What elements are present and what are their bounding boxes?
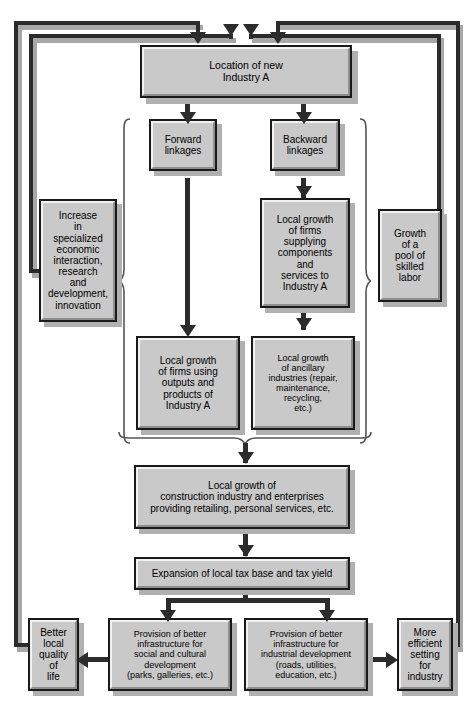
node-location-label: Location of newIndustry A <box>209 60 283 84</box>
node-efficient-label: Moreefficientsettingforindustry <box>407 627 442 683</box>
feedback-arrow-2-icon <box>223 24 239 36</box>
node-better-quality-of-life[interactable]: Betterlocalqualityoflife <box>28 618 79 691</box>
feedback-outer-right-top <box>276 21 460 25</box>
node-industrial-infrastructure[interactable]: Provision of betterinfrastructure forind… <box>244 618 368 691</box>
arrow-location-to-forward-icon <box>180 112 196 124</box>
edge-tax-split-bar <box>166 598 330 603</box>
node-forward-linkages-label: Forwardlinkages <box>165 134 202 156</box>
arrow-industrial-to-efficient-icon <box>386 652 398 668</box>
node-backward-linkages-label: Backwardlinkages <box>283 134 327 156</box>
arrow-linkages-to-construction-icon <box>238 452 254 464</box>
feedback-arrow-1-icon <box>190 32 206 44</box>
feedback-outer-right-top-shadow <box>279 25 463 30</box>
feedback-outer-left-vert <box>14 21 18 647</box>
node-local-growth-construction[interactable]: Local growth ofconstruction industry and… <box>134 465 350 529</box>
node-ancillary-label: Local growthof ancillaryindustries (repa… <box>268 353 337 413</box>
arrow-construction-to-tax-icon <box>238 545 254 557</box>
feedback-arrow-4-icon <box>270 32 286 44</box>
node-quality-label: Betterlocalqualityoflife <box>39 627 68 683</box>
node-backward-linkages[interactable]: Backwardlinkages <box>270 119 340 171</box>
node-increase-label: Increaseinspecializedeconomicinteraction… <box>48 210 108 311</box>
arrow-backward-to-supplying-icon <box>296 186 312 198</box>
node-expansion-tax-base[interactable]: Expansion of local tax base and tax yiel… <box>134 557 350 590</box>
node-social-infra-label: Provision of betterinfrastructure forsoc… <box>127 629 213 679</box>
node-social-cultural-infrastructure[interactable]: Provision of betterinfrastructure forsoc… <box>108 618 232 691</box>
arrow-location-to-backward-icon <box>296 112 312 124</box>
node-local-growth-supplying-firms[interactable]: Local growthof firmssupplyingcomponentsa… <box>260 198 350 308</box>
node-tax-base-label: Expansion of local tax base and tax yiel… <box>152 568 333 579</box>
node-using-outputs-label: Local growthof firms usingoutputs andpro… <box>158 355 217 411</box>
feedback-outer-left-top-shadow <box>17 25 203 30</box>
node-industrial-infra-label: Provision of betterinfrastructure forind… <box>261 629 351 679</box>
edge-social-to-quality <box>88 657 110 662</box>
linkage-group-right-brace <box>358 118 372 444</box>
arrow-supplying-to-ancillary-icon <box>296 318 312 330</box>
feedback-outer-left-top <box>14 21 200 25</box>
arrow-tax-to-social-icon <box>160 610 176 622</box>
node-supplying-label: Local growthof firmssupplyingcomponentsa… <box>277 214 334 292</box>
node-local-growth-using-outputs[interactable]: Local growthof firms usingoutputs andpro… <box>136 336 240 430</box>
node-construction-label: Local growth ofconstruction industry and… <box>150 480 333 514</box>
flowchart-canvas: Location of newIndustry A Forwardlinkage… <box>0 0 476 708</box>
node-increase-specialized-interaction[interactable]: Increaseinspecializedeconomicinteraction… <box>39 199 117 322</box>
arrow-forward-to-using-outputs-icon <box>180 325 196 337</box>
feedback-outer-right-vert <box>456 21 460 647</box>
node-forward-linkages[interactable]: Forwardlinkages <box>149 119 217 171</box>
arrow-social-to-quality-icon <box>76 652 88 668</box>
node-location-of-new-industry[interactable]: Location of newIndustry A <box>140 45 352 98</box>
node-more-efficient-setting[interactable]: Moreefficientsettingforindustry <box>397 618 453 691</box>
node-skilled-label: Growthof apool ofskilledlabor <box>394 228 426 284</box>
feedback-inner-left-vert <box>29 34 33 273</box>
node-skilled-labor-pool[interactable]: Growthof apool ofskilledlabor <box>378 209 442 302</box>
arrow-tax-to-industrial-icon <box>319 610 335 622</box>
feedback-arrow-3-icon <box>243 24 259 36</box>
node-local-growth-ancillary[interactable]: Local growthof ancillaryindustries (repa… <box>251 336 355 430</box>
edge-forward-to-using-outputs <box>185 178 190 330</box>
